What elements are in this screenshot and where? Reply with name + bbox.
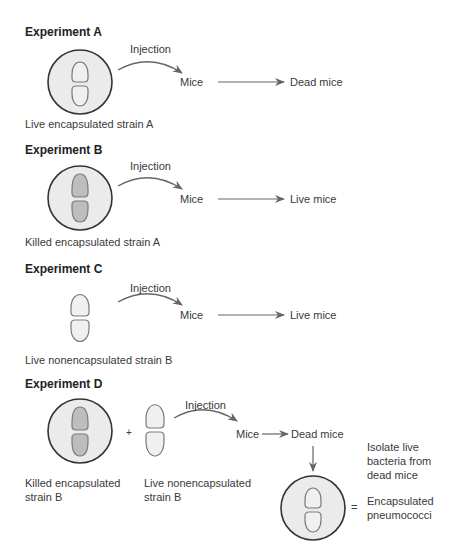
exp-b-mice-label: Mice <box>180 192 203 206</box>
exp-d-outcome-label: Dead mice <box>291 427 344 441</box>
exp-a-dish <box>48 50 112 114</box>
exp-b-dish <box>48 166 112 230</box>
exp-d-sample-1-label-line2: strain B <box>25 490 62 504</box>
exp-b-sample-label: Killed encapsulated strain A <box>25 235 160 249</box>
exp-d-killed-dish <box>48 399 112 463</box>
exp-d-result-dish <box>281 476 345 540</box>
exp-c-mice-label: Mice <box>180 308 203 322</box>
exp-a-mice-label: Mice <box>180 75 203 89</box>
exp-b-injection-label: Injection <box>130 159 171 173</box>
exp-d-mice-label: Mice <box>236 427 259 441</box>
exp-c-outcome-label: Live mice <box>290 308 336 322</box>
exp-b-title: Experiment B <box>25 143 102 157</box>
exp-d-result-line1: Encapsulated <box>367 494 434 508</box>
exp-d-equals-sign: = <box>351 500 357 514</box>
exp-c-title: Experiment C <box>25 262 102 276</box>
exp-d-sample-2-label-line2: strain B <box>144 490 181 504</box>
exp-d-isolate-line3: dead mice <box>367 468 418 482</box>
exp-a-outcome-label: Dead mice <box>290 75 343 89</box>
exp-c-cells <box>71 295 89 342</box>
exp-c-injection-label: Injection <box>130 281 171 295</box>
exp-a-title: Experiment A <box>25 25 102 39</box>
exp-d-plus-sign: + <box>126 426 132 440</box>
exp-d-isolate-line2: bacteria from <box>367 454 431 468</box>
exp-a-injection-label: Injection <box>130 42 171 56</box>
exp-d-sample-1-label-line1: Killed encapsulated <box>25 476 120 490</box>
exp-b-injection-arrow <box>118 178 182 189</box>
exp-a-sample-label: Live encapsulated strain A <box>25 117 153 131</box>
exp-d-injection-label: Injection <box>185 398 226 412</box>
exp-c-injection-arrow <box>118 294 182 305</box>
exp-d-sample-2-label-line1: Live nonencapsulated <box>144 476 251 490</box>
exp-d-title: Experiment D <box>25 377 102 391</box>
exp-a-injection-arrow <box>118 62 182 73</box>
exp-d-live-cells <box>146 405 164 456</box>
exp-c-sample-label: Live nonencapsulated strain B <box>25 353 172 367</box>
exp-b-outcome-label: Live mice <box>290 192 336 206</box>
exp-d-result-line2: pneumococci <box>367 508 432 522</box>
exp-d-isolate-line1: Isolate live <box>367 440 419 454</box>
